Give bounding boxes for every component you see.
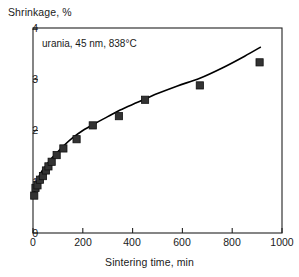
data-markers bbox=[31, 59, 264, 199]
data-point bbox=[196, 82, 203, 89]
data-point bbox=[73, 136, 80, 143]
data-point bbox=[53, 152, 60, 159]
data-point bbox=[256, 59, 263, 66]
data-point bbox=[115, 113, 122, 120]
data-point bbox=[60, 145, 67, 152]
data-point bbox=[89, 122, 96, 129]
data-point bbox=[48, 158, 55, 165]
chart-figure: Shrinkage, % urania, 45 nm, 838°C 4 3 2 … bbox=[0, 0, 299, 277]
axis-ticks bbox=[33, 28, 282, 233]
data-point bbox=[141, 96, 148, 103]
axes-frame bbox=[33, 28, 282, 233]
data-point bbox=[31, 192, 38, 199]
plot-canvas bbox=[0, 0, 299, 277]
fit-curve bbox=[34, 47, 261, 195]
